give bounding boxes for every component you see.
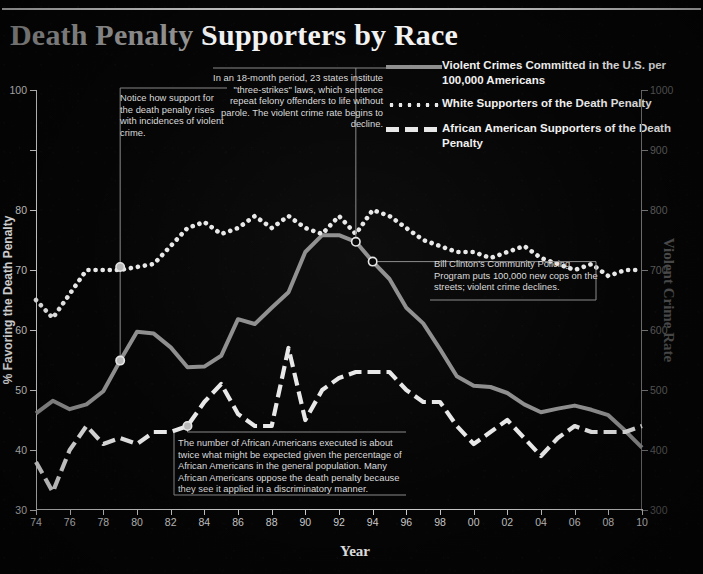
- anno-three-strikes: In an 18-month period, 23 states institu…: [213, 72, 383, 130]
- y-tick-label-left: 100: [9, 84, 27, 96]
- y-tick-label-right: 900: [650, 144, 668, 156]
- y-tick-right: [641, 270, 648, 271]
- y-tick-label-left: 30: [15, 504, 27, 516]
- y-tick-right: [641, 150, 648, 151]
- y-tick-label-right: 500: [650, 384, 668, 396]
- y-tick-label-left: 50: [15, 384, 27, 396]
- x-tick-label: 00: [468, 516, 480, 528]
- anno-support-rises: Notice how support for the death penalty…: [120, 92, 224, 138]
- x-axis-label: Year: [340, 543, 370, 560]
- y-tick-label-right: 800: [650, 204, 668, 216]
- x-tick-label: 80: [131, 516, 143, 528]
- x-tick-label: 94: [367, 516, 379, 528]
- x-tick-label: 84: [198, 516, 210, 528]
- page-title: Death Penalty Supporters by Race: [10, 18, 458, 52]
- top-rule: [2, 8, 701, 10]
- x-tick-label: 04: [535, 516, 547, 528]
- legend-swatch-solid-icon: [386, 65, 442, 69]
- y-tick-right: [641, 390, 648, 391]
- x-tick-label: 88: [266, 516, 278, 528]
- y-tick-label-right: 300: [650, 504, 668, 516]
- legend-item-violent-crime: Violent Crimes Committed in the U.S. per…: [386, 58, 686, 87]
- y-tick-right: [641, 330, 648, 331]
- y-tick-right: [641, 210, 648, 211]
- x-tick-label: 82: [165, 516, 177, 528]
- x-tick-label: 06: [569, 516, 581, 528]
- y-axis-left-label: % Favoring the Death Penalty: [1, 216, 15, 385]
- y-tick-label-left: 80: [15, 204, 27, 216]
- anno-discrimination: The number of African Americans executed…: [178, 437, 406, 495]
- x-tick: [642, 509, 643, 515]
- y-tick-label-left: 70: [15, 264, 27, 276]
- y-tick-label-right: 400: [650, 444, 668, 456]
- x-tick-label: 02: [501, 516, 513, 528]
- x-tick-label: 98: [434, 516, 446, 528]
- y-tick-label-left: 40: [15, 444, 27, 456]
- x-tick-label: 74: [30, 516, 42, 528]
- y-tick-label-left: 60: [15, 324, 27, 336]
- anno-clinton-policing: Bill Clinton's Community Policing Progra…: [434, 258, 602, 293]
- x-tick-label: 08: [602, 516, 614, 528]
- y-tick-right: [641, 450, 648, 451]
- x-tick-label: 86: [232, 516, 244, 528]
- legend-label: Violent Crimes Committed in the U.S. per…: [442, 58, 686, 87]
- x-tick-label: 10: [636, 516, 648, 528]
- x-tick-label: 90: [299, 516, 311, 528]
- x-tick-label: 92: [333, 516, 345, 528]
- x-tick-label: 96: [400, 516, 412, 528]
- title-part-two: Supporters by Race: [201, 18, 458, 51]
- x-tick-label: 76: [64, 516, 76, 528]
- x-tick-label: 78: [97, 516, 109, 528]
- y-tick-label-right: 1000: [650, 84, 673, 96]
- y-axis-right-label: Violent Crime Rate: [660, 238, 677, 362]
- title-part-one: Death Penalty: [10, 18, 193, 51]
- y-tick-right: [641, 90, 648, 91]
